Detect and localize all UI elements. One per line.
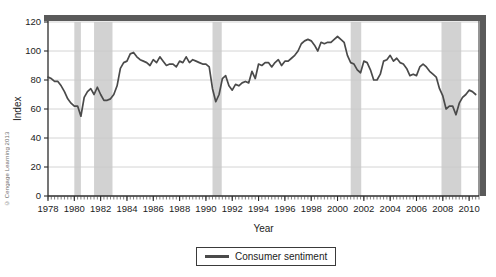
y-tick-label-60: 60 (30, 103, 41, 114)
x-tick-label-1980: 1980 (64, 203, 85, 214)
x-tick-label-1996: 1996 (274, 203, 295, 214)
x-axis-title: Year (253, 223, 274, 234)
x-tick-label-1986: 1986 (143, 203, 164, 214)
y-tick-label-0: 0 (36, 190, 41, 201)
chart-figure: © Cengage Learning 2013 Index 0204060801… (0, 0, 496, 277)
x-tick-label-1978: 1978 (37, 203, 58, 214)
x-tick-label-2010: 2010 (459, 203, 480, 214)
y-tick-label-120: 120 (25, 16, 41, 27)
y-tick-label-100: 100 (25, 45, 41, 56)
x-tick-label-2002: 2002 (353, 203, 374, 214)
x-tick-label-1994: 1994 (248, 203, 269, 214)
right-border-bar (480, 15, 486, 196)
chart-legend: Consumer sentiment (196, 247, 336, 266)
consumer-sentiment-line-chart: 0204060801001201978198019821984198619881… (0, 0, 496, 277)
y-tick-label-40: 40 (30, 132, 41, 143)
y-tick-label-20: 20 (30, 161, 41, 172)
x-tick-label-1998: 1998 (301, 203, 322, 214)
x-tick-label-2000: 2000 (327, 203, 348, 214)
legend-label-consumer-sentiment: Consumer sentiment (235, 251, 327, 262)
legend-line-swatch (205, 255, 229, 258)
x-tick-label-2004: 2004 (380, 203, 401, 214)
x-tick-label-1988: 1988 (169, 203, 190, 214)
x-tick-label-2006: 2006 (406, 203, 427, 214)
x-tick-label-1992: 1992 (222, 203, 243, 214)
x-tick-label-1984: 1984 (116, 203, 137, 214)
x-tick-label-1982: 1982 (90, 203, 111, 214)
top-border-bar (44, 15, 486, 21)
x-tick-label-2008: 2008 (432, 203, 453, 214)
y-tick-label-80: 80 (30, 74, 41, 85)
x-tick-label-1990: 1990 (195, 203, 216, 214)
